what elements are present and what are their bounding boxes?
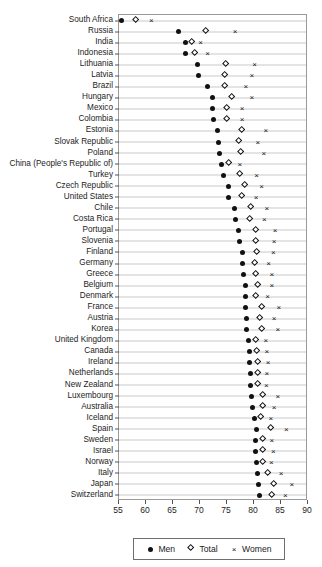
total-legend-icon-glyph (187, 544, 195, 552)
women-marker (268, 459, 275, 466)
chart-row (119, 391, 306, 402)
chart-row (119, 236, 306, 247)
x-axis-tick-label: 70 (194, 505, 203, 515)
total-marker (258, 303, 266, 311)
men-marker (221, 173, 226, 178)
y-axis-tick (115, 130, 119, 131)
men-marker (241, 272, 246, 277)
total-marker (223, 104, 231, 112)
legend-item-women: Women (230, 544, 271, 554)
men-marker (205, 84, 210, 89)
women-marker (270, 238, 277, 245)
y-axis-label: Slovak Republic (0, 136, 114, 147)
y-axis-label: Russia (0, 25, 114, 36)
y-axis-label: Brazil (0, 80, 114, 91)
y-axis-label: Lithuania (0, 58, 114, 69)
y-axis-label: China (People's Republic of) (0, 158, 114, 169)
x-axis-tick-label: 55 (113, 505, 122, 515)
total-marker (257, 413, 265, 421)
y-axis-label: Turkey (0, 169, 114, 180)
men-marker (253, 438, 258, 443)
total-marker (202, 27, 210, 35)
y-axis-label: Japan (0, 478, 114, 489)
chart-row (119, 380, 306, 391)
y-axis-tick (115, 42, 119, 43)
y-axis-label: Indonesia (0, 47, 114, 58)
total-marker (259, 457, 267, 465)
men-marker (240, 261, 245, 266)
women-marker (270, 448, 277, 455)
x-axis-tick-label: 85 (275, 505, 284, 515)
y-axis-label: Norway (0, 456, 114, 467)
women-marker (239, 116, 246, 123)
row-gridline (119, 340, 306, 341)
chart-row (119, 192, 306, 203)
women-marker (282, 492, 289, 499)
row-gridline (119, 252, 306, 253)
women-marker (248, 72, 255, 79)
y-axis-tick (115, 462, 119, 463)
total-marker (256, 314, 264, 322)
total-marker (253, 347, 261, 355)
row-gridline (119, 484, 306, 485)
row-gridline (119, 75, 306, 76)
row-gridline (119, 197, 306, 198)
men-marker (246, 338, 251, 343)
total-marker (225, 159, 233, 167)
y-axis-label: Switzerland (0, 489, 114, 500)
row-gridline (119, 274, 306, 275)
y-axis-label: Portugal (0, 224, 114, 235)
men-marker (196, 73, 201, 78)
y-axis-tick (115, 197, 119, 198)
y-axis-tick (115, 219, 119, 220)
chart-row (119, 48, 306, 59)
y-axis-tick (115, 108, 119, 109)
total-marker (259, 446, 267, 454)
row-gridline (119, 175, 306, 176)
y-axis-label: Ireland (0, 356, 114, 367)
y-axis-tick (115, 440, 119, 441)
row-gridline (119, 186, 306, 187)
y-axis-tick (115, 407, 119, 408)
total-marker (188, 38, 196, 46)
y-axis-tick (115, 119, 119, 120)
total-marker (238, 126, 246, 134)
y-axis-label: Luxembourg (0, 390, 114, 401)
men-marker (254, 460, 259, 465)
y-axis-tick (115, 175, 119, 176)
women-marker (272, 227, 279, 234)
women-marker (253, 194, 260, 201)
women-marker (148, 17, 155, 24)
chart-row (119, 324, 306, 335)
y-axis-label: Denmark (0, 290, 114, 301)
y-axis-label: Korea (0, 323, 114, 334)
women-marker (261, 216, 268, 223)
men-marker (256, 482, 261, 487)
total-marker (253, 380, 261, 388)
total-marker (246, 203, 254, 211)
chart-row (119, 26, 306, 37)
row-gridline (119, 142, 306, 143)
row-gridline (119, 385, 306, 386)
chart-row (119, 457, 306, 468)
chart-row (119, 424, 306, 435)
total-marker (191, 49, 199, 57)
total-marker (252, 225, 260, 233)
men-marker (237, 239, 242, 244)
y-axis-tick (115, 362, 119, 363)
y-axis-label: Canada (0, 345, 114, 356)
men-marker (254, 427, 259, 432)
women-marker (251, 61, 258, 68)
y-axis-tick (115, 318, 119, 319)
y-axis-label: France (0, 301, 114, 312)
y-axis-label: Estonia (0, 124, 114, 135)
chart-row (119, 214, 306, 225)
total-marker (237, 148, 245, 156)
total-marker (268, 491, 276, 499)
y-axis-tick (115, 329, 119, 330)
x-axis-tick-label: 75 (221, 505, 230, 515)
y-axis-tick (115, 473, 119, 474)
chart-row (119, 170, 306, 181)
total-marker (252, 336, 260, 344)
y-axis-label: Slovenia (0, 235, 114, 246)
